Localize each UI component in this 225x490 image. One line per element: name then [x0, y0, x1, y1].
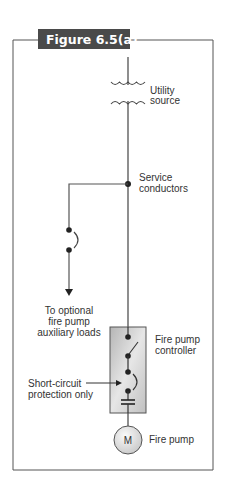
short-circuit-label-line1: Short-circuit — [28, 378, 82, 389]
arrow-down-icon — [65, 289, 73, 296]
controller-label-line2: controller — [155, 345, 197, 356]
figure-title-tab: Figure 6.5(a) — [38, 29, 138, 49]
aux-switch-dot-bottom — [66, 247, 72, 253]
transformer-gap — [124, 85, 132, 101]
service-conductors-label-line1: Service — [139, 172, 173, 183]
service-conductors-label-line2: conductors — [139, 183, 188, 194]
motor-symbol: M — [124, 435, 132, 446]
aux-fuse-arc-icon — [74, 232, 78, 248]
utility-source-label-line2: source — [150, 95, 180, 106]
aux-switch-dot-top — [66, 227, 72, 233]
breaker-dot-top — [125, 369, 131, 375]
figure-title: Figure 6.5(a) — [46, 32, 138, 47]
aux-loads-label-line2: fire pump — [48, 316, 90, 327]
controller-label-line1: Fire pump — [155, 334, 200, 345]
aux-loads-label-line1: To optional — [45, 305, 93, 316]
controller-switch-dot-top — [125, 334, 131, 340]
fire-pump-diagram: Figure 6.5(a) Utility source Service con… — [0, 0, 225, 490]
short-circuit-label-line2: protection only — [28, 389, 93, 400]
aux-loads-label-line3: auxiliary loads — [37, 327, 100, 338]
fire-pump-label: Fire pump — [149, 434, 194, 445]
